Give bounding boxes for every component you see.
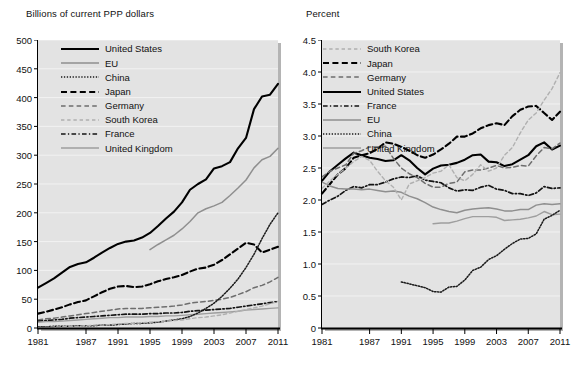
right-legend: South KoreaJapanGermanyUnited StatesFran… [322, 42, 435, 156]
legend-item: South Korea [322, 42, 435, 56]
y-tick-label: 50 [4, 294, 32, 305]
legend-label: South Korea [100, 115, 158, 125]
x-tick-label: 2011 [550, 336, 570, 347]
x-tick-label: 1995 [139, 336, 160, 347]
legend-item: EU [60, 56, 173, 70]
legend-label: France [362, 101, 397, 111]
legend-label: Japan [100, 87, 131, 97]
legend-label: China [100, 73, 130, 83]
y-tick-label: 3.5 [288, 99, 316, 110]
x-tick-label: 2003 [486, 336, 507, 347]
legend-label: South Korea [362, 44, 420, 54]
y-tick-label: 3.0 [288, 131, 316, 142]
legend-label: Germany [100, 101, 144, 111]
y-tick-label: 4.5 [288, 35, 316, 46]
legend-key-dotted [60, 71, 100, 83]
y-tick-label: 2.5 [288, 163, 316, 174]
x-tick-label: 1987 [359, 336, 380, 347]
y-tick-label: 500 [4, 35, 32, 46]
legend-key-dotted [322, 128, 362, 140]
legend-item: Germany [322, 70, 435, 84]
legend-key-dashed-thin [60, 100, 100, 112]
legend-label: Germany [362, 73, 406, 83]
legend-item: United Kingdom [60, 141, 173, 155]
legend-label: Japan [362, 59, 393, 69]
legend-label: China [362, 129, 392, 139]
left-axis-title: Billions of current PPP dollars [26, 8, 154, 19]
y-tick-label: 0 [288, 323, 316, 334]
legend-key-solid-thin [60, 57, 100, 69]
y-tick-label: 100 [4, 265, 32, 276]
left-legend: United StatesEUChinaJapanGermanySouth Ko… [60, 42, 173, 156]
left-chart-panel: Billions of current PPP dollars 05010015… [0, 0, 288, 365]
x-tick-label: 1999 [171, 336, 192, 347]
legend-key-dash-dot [60, 128, 100, 140]
legend-item: Japan [322, 56, 435, 70]
legend-key-dashed-light [60, 114, 100, 126]
x-tick-label: 1991 [391, 336, 412, 347]
x-tick-label: 2007 [235, 336, 256, 347]
legend-key-solid-gray [60, 142, 100, 154]
y-tick-label: 1.0 [288, 259, 316, 270]
legend-key-solid-thick [322, 86, 362, 98]
legend-item: South Korea [60, 113, 173, 127]
legend-label: United Kingdom [100, 144, 173, 154]
y-tick-label: 300 [4, 150, 32, 161]
legend-label: EU [100, 59, 118, 69]
figure-root: Billions of current PPP dollars 05010015… [0, 0, 571, 365]
y-tick-label: 450 [4, 63, 32, 74]
y-tick-label: 350 [4, 121, 32, 132]
legend-key-solid-thin [322, 114, 362, 126]
y-tick-label: 4.0 [288, 67, 316, 78]
legend-label: France [100, 129, 135, 139]
x-tick-label: 1991 [107, 336, 128, 347]
y-tick-label: 1.5 [288, 227, 316, 238]
legend-key-solid-thick [60, 43, 100, 55]
legend-item: China [60, 70, 173, 84]
x-tick-label: 2007 [518, 336, 539, 347]
x-tick-label: 1995 [422, 336, 443, 347]
y-tick-label: 400 [4, 92, 32, 103]
x-tick-label: 1987 [75, 336, 96, 347]
legend-key-solid-gray [322, 142, 362, 154]
x-tick-label: 1981 [27, 336, 48, 347]
legend-label: EU [362, 115, 380, 125]
legend-item: United Kingdom [322, 141, 435, 155]
legend-label: United States [100, 44, 162, 54]
x-tick-label: 1999 [454, 336, 475, 347]
x-tick-label: 2003 [203, 336, 224, 347]
y-tick-label: 200 [4, 207, 32, 218]
legend-item: United States [60, 42, 173, 56]
legend-label: United States [362, 87, 424, 97]
legend-item: China [322, 127, 435, 141]
y-tick-label: 250 [4, 179, 32, 190]
x-tick-label: 1981 [311, 336, 332, 347]
legend-key-dashed-thin [322, 71, 362, 83]
y-tick-label: 0 [4, 323, 32, 334]
legend-key-dashed-light [322, 43, 362, 55]
legend-item: France [60, 127, 173, 141]
legend-item: France [322, 99, 435, 113]
right-chart-panel: Percent 00.51.01.52.02.53.03.54.04.51981… [288, 0, 571, 365]
legend-key-dashed-thick [322, 57, 362, 69]
x-tick-label: 2011 [268, 336, 288, 347]
y-tick-label: 2.0 [288, 195, 316, 206]
y-tick-label: 150 [4, 236, 32, 247]
legend-key-dashed-thick [60, 86, 100, 98]
legend-label: United Kingdom [362, 144, 435, 154]
legend-item: Japan [60, 85, 173, 99]
legend-item: EU [322, 113, 435, 127]
y-tick-label: 0.5 [288, 291, 316, 302]
legend-item: Germany [60, 99, 173, 113]
legend-key-dash-dot [322, 100, 362, 112]
legend-item: United States [322, 85, 435, 99]
right-axis-title: Percent [306, 8, 339, 19]
